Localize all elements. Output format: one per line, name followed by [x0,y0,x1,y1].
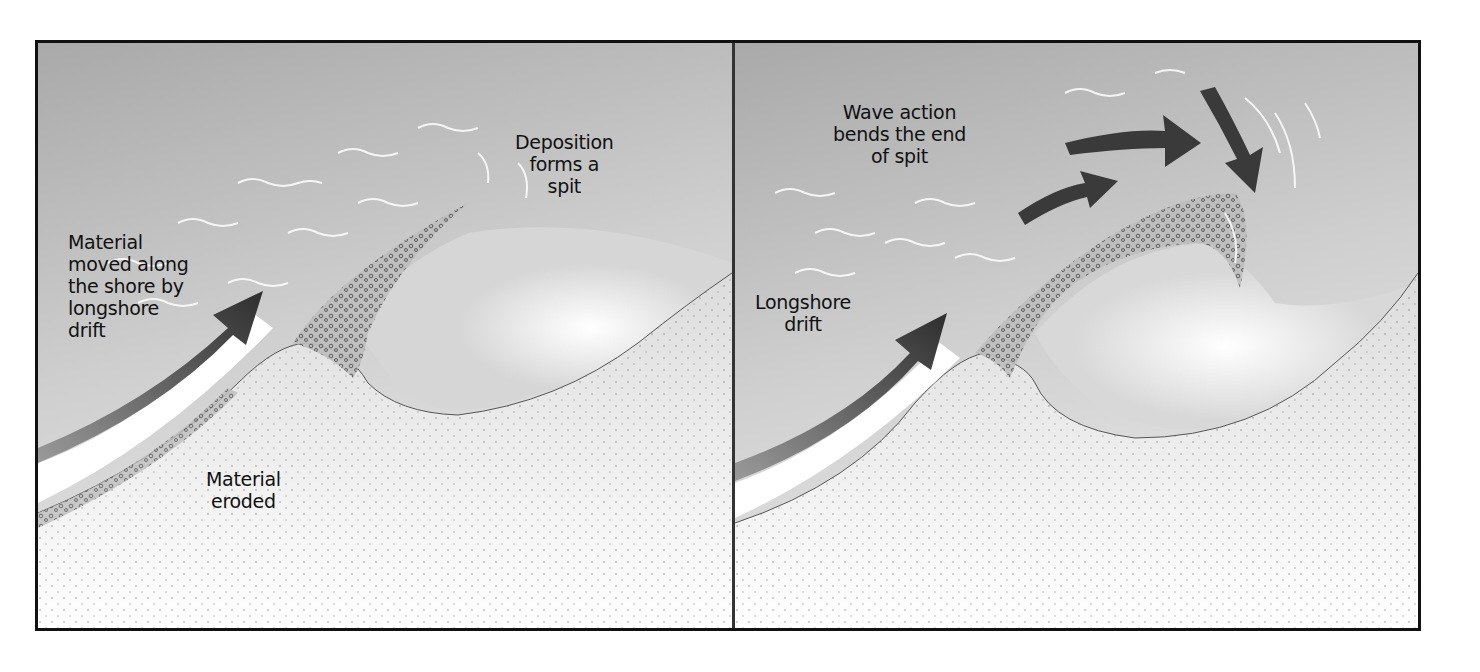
label-deposition-forms-spit: Deposition forms a spit [515,131,614,197]
diagram-frame: Material moved along the shore by longsh… [35,40,1421,631]
label-wave-action-bends-spit: Wave action bends the end of spit [833,101,966,167]
label-material-moved-drift: Material moved along the shore by longsh… [68,231,189,341]
label-material-eroded: Material eroded [206,468,281,512]
label-longshore-drift: Longshore drift [755,291,851,335]
panel-spit-formation: Material moved along the shore by longsh… [38,43,732,628]
panel-recurved-spit: Wave action bends the end of spit Longsh… [735,43,1418,628]
